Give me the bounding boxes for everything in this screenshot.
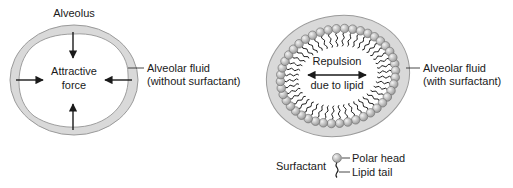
lipid-tail-icon	[336, 163, 338, 178]
polar-head-icon	[333, 154, 342, 163]
polar-head-icon	[319, 119, 328, 128]
polar-head-icon	[324, 26, 333, 35]
fluid-label-with-1: Alveolar fluid	[423, 62, 486, 74]
repulsion-label-1: Repulsion	[313, 55, 362, 67]
polar-head-icon	[335, 119, 344, 128]
polar-head-icon	[351, 116, 360, 125]
repulsion-label-2: due to lipid	[310, 79, 363, 91]
polar-head-icon	[340, 24, 349, 33]
legend-title: Surfactant	[276, 160, 326, 172]
alveolus-without-surfactant: Alveolus Attractive force Alveolar fluid…	[10, 7, 241, 135]
alveolus-diagram: Alveolus Attractive force Alveolar fluid…	[0, 0, 513, 188]
fluid-label-without-2: (without surfactant)	[147, 75, 241, 87]
polar-head-icon	[344, 118, 353, 127]
polar-head-icon	[359, 112, 368, 121]
attractive-force-label-1: Attractive	[51, 65, 97, 77]
alveolus-title: Alveolus	[53, 7, 95, 19]
polar-head-icon	[332, 25, 341, 34]
polar-head-icon	[327, 119, 336, 128]
attractive-force-label-2: force	[62, 79, 86, 91]
lipid-tail-label: Lipid tail	[352, 166, 392, 178]
polar-head-icon	[316, 28, 325, 37]
surfactant-legend: Surfactant Polar head Lipid tail	[276, 152, 405, 178]
fluid-label-without-1: Alveolar fluid	[147, 62, 210, 74]
polar-head-label: Polar head	[352, 152, 405, 164]
polar-head-icon	[308, 31, 317, 40]
fluid-label-with-2: (with surfactant)	[423, 75, 501, 87]
polar-head-icon	[348, 25, 357, 34]
alveolus-with-surfactant: Repulsion due to lipid Alveolar fluid (w…	[255, 2, 501, 149]
polar-head-icon	[389, 53, 398, 62]
